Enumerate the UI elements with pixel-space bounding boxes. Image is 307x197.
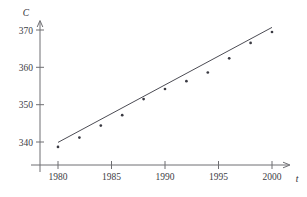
x-tick-label-1990: 1990 [156,172,175,182]
data-point [142,98,145,101]
regression-line [58,27,272,142]
x-tick-label-1985: 1985 [102,172,121,182]
x-axis-label: t [296,174,299,184]
data-point [271,31,274,34]
data-point [99,124,102,127]
regression-line-group [58,27,272,142]
data-point [228,57,231,60]
axis-names-group: C t [23,8,299,184]
co2-scatter-figure: 370 360 350 340 1980 1985 1990 1995 2000… [0,0,307,197]
data-points-group [57,31,274,149]
y-tick-label-350: 350 [19,100,34,110]
data-point [164,88,167,91]
data-point [249,42,252,45]
y-tick-label-340: 340 [19,138,34,148]
y-tick-label-360: 360 [19,63,34,73]
y-axis-label: C [23,8,30,18]
x-tick-label-2000: 2000 [263,172,282,182]
data-point [185,80,188,83]
y-tick-labels-group: 370 360 350 340 [19,26,34,148]
data-point [78,136,81,139]
x-tick-label-1980: 1980 [49,172,68,182]
data-point [57,146,60,149]
x-tick-label-1995: 1995 [209,172,228,182]
chart-canvas: 370 360 350 340 1980 1985 1990 1995 2000… [0,0,307,197]
y-tick-label-370: 370 [19,26,34,36]
x-tick-labels-group: 1980 1985 1990 1995 2000 [49,172,282,182]
data-point [206,71,209,74]
data-point [121,114,124,117]
